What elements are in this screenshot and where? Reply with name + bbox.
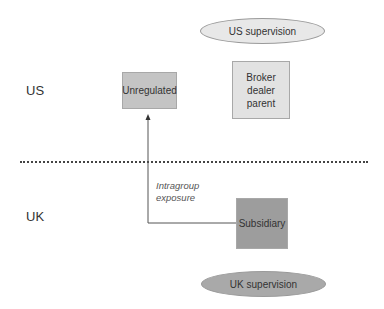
intragroup-exposure-connector: [0, 0, 384, 309]
subsidiary-box: Subsidiary: [236, 198, 288, 249]
uk-supervision-label: UK supervision: [230, 279, 297, 290]
intragroup-exposure-label: Intragroup exposure: [156, 180, 199, 204]
uk-supervision-ellipse: UK supervision: [201, 271, 326, 297]
intragroup-exposure-line1: Intragroup: [156, 180, 199, 192]
arrowhead-icon: [146, 114, 151, 120]
subsidiary-label: Subsidiary: [239, 217, 286, 230]
intragroup-exposure-line2: exposure: [156, 192, 199, 204]
